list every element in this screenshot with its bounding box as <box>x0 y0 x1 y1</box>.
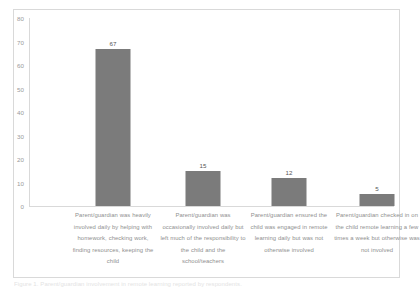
category-label: Parent/guardian was occasionally involve… <box>160 210 246 268</box>
plot-area: 67 15 12 5 <box>29 18 394 206</box>
x-axis-line <box>29 206 394 207</box>
y-tick-label: 10 <box>17 179 29 186</box>
bar-rect[interactable] <box>186 171 221 206</box>
bar-value-label: 67 <box>109 40 116 47</box>
bar-rect[interactable] <box>360 194 395 206</box>
bar-value-label: 12 <box>285 169 292 176</box>
y-tick-label: 80 <box>17 15 29 22</box>
y-tick-label: 30 <box>17 132 29 139</box>
bar-value-label: 5 <box>375 185 379 192</box>
bar-rect[interactable] <box>272 178 307 206</box>
y-tick-label: 60 <box>17 62 29 69</box>
bar-rect[interactable] <box>96 49 131 206</box>
x-axis-category-labels: Parent/guardian was heavily involved dai… <box>29 210 394 270</box>
y-tick-label: 20 <box>17 156 29 163</box>
y-tick-label: 0 <box>20 203 29 210</box>
bar-slot: 15 <box>160 18 246 206</box>
category-label: Parent/guardian ensured the child was en… <box>246 210 332 256</box>
y-tick-label: 50 <box>17 85 29 92</box>
bar-slot: 5 <box>334 18 420 206</box>
bar-value-label: 15 <box>199 162 206 169</box>
category-label: Parent/guardian was heavily involved dai… <box>70 210 156 268</box>
category-label: Parent/guardian checked in on the child … <box>334 210 420 256</box>
bar-slot: 12 <box>246 18 332 206</box>
bar-slot: 67 <box>70 18 156 206</box>
y-tick-label: 40 <box>17 109 29 116</box>
y-tick-label: 70 <box>17 38 29 45</box>
bottom-caption-cutoff: Figure 1. Parent/guardian involvement in… <box>14 281 404 290</box>
